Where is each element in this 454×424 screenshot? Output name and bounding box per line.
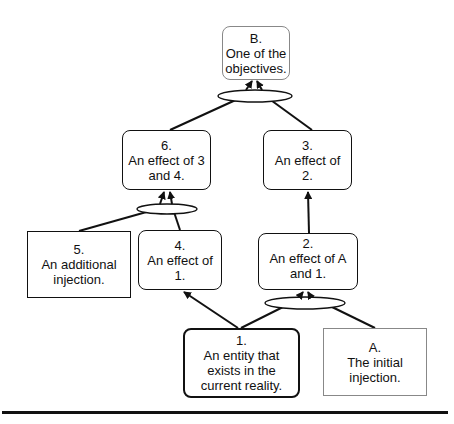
node-1-id: 1. — [236, 333, 247, 348]
node-6-line1: An effect of 3 — [128, 153, 204, 168]
node-5-injection[interactable]: 5. An additional injection. — [27, 231, 131, 298]
node-a-initial-injection[interactable]: A. The initial injection. — [323, 328, 427, 396]
node-2-line2: and 1. — [290, 266, 326, 281]
node-4-line2: 1. — [175, 268, 186, 283]
node-6-id: 6. — [161, 138, 172, 153]
and-connector-to-6 — [79, 192, 197, 231]
node-b-id: B. — [250, 31, 262, 46]
node-4-effect[interactable]: 4. An effect of 1. — [138, 230, 222, 290]
node-2-effect[interactable]: 2. An effect of A and 1. — [258, 233, 358, 290]
node-5-line2: injection. — [53, 272, 104, 287]
node-b-line1: One of the — [226, 46, 287, 61]
node-b-objective[interactable]: B. One of the objectives. — [222, 26, 290, 80]
node-3-line1: An effect of — [275, 153, 341, 168]
node-3-line2: 2. — [302, 168, 313, 183]
node-2-id: 2. — [303, 236, 314, 251]
node-a-line2: injection. — [349, 370, 400, 385]
node-5-line1: An additional — [41, 257, 116, 272]
node-1-line2: exists in the — [207, 363, 276, 378]
and-connector-to-2 — [241, 292, 375, 328]
node-6-line2: and 4. — [148, 168, 184, 183]
node-4-line1: An effect of — [147, 253, 213, 268]
node-6-effect[interactable]: 6. An effect of 3 and 4. — [122, 130, 211, 190]
horizontal-rule — [2, 411, 448, 414]
node-2-line1: An effect of A — [269, 251, 346, 266]
arrow-2-to-3 — [308, 192, 309, 233]
node-1-line3: current reality. — [201, 378, 282, 393]
and-connector-to-b — [170, 81, 312, 130]
node-a-line1: The initial — [347, 355, 403, 370]
arrow-1-to-4 — [184, 292, 238, 328]
node-4-id: 4. — [175, 238, 186, 253]
node-5-id: 5. — [74, 242, 85, 257]
node-b-line2: objectives. — [225, 61, 286, 76]
node-1-entity[interactable]: 1. An entity that exists in the current … — [183, 328, 300, 398]
node-3-id: 3. — [302, 138, 313, 153]
node-3-effect[interactable]: 3. An effect of 2. — [263, 130, 352, 190]
node-a-id: A. — [369, 340, 381, 355]
node-1-line1: An entity that — [204, 348, 280, 363]
